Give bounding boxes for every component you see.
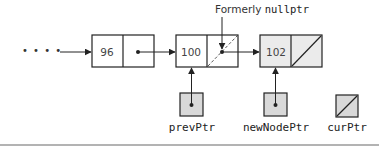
prevptr-variable: prevPtr	[169, 68, 216, 134]
node-value: 100	[181, 46, 201, 58]
ellipsis: • • • •	[22, 45, 62, 56]
pointer-label: prevPtr	[169, 121, 216, 134]
annotation-label: Formerly nullptr	[215, 3, 309, 15]
node-96: 96	[92, 35, 154, 67]
pointer-label: newNodePtr	[243, 121, 310, 134]
node-100: 100	[176, 35, 238, 67]
pointer-label: curPtr	[327, 121, 367, 134]
node-102: 102	[260, 35, 322, 67]
linked-list-diagram: • • • • 96 100 Formerly nullptr 102 prev…	[0, 0, 379, 147]
newnodeptr-variable: newNodePtr	[243, 68, 310, 134]
node-value: 102	[266, 46, 286, 58]
curptr-variable: curPtr	[327, 95, 367, 134]
node-value: 96	[100, 46, 114, 58]
